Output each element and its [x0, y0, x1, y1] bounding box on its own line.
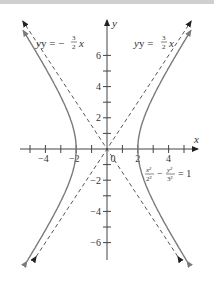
x-tick-label: −2 [69, 153, 80, 164]
y-tick-label: −2 [90, 175, 101, 186]
svg-text:yy =: yy = [133, 37, 153, 49]
x-tick-label: 4 [166, 153, 171, 164]
y-tick-label: −6 [90, 237, 101, 248]
svg-text:y²: y² [166, 166, 173, 174]
x-tick-labels: −4−2024 [38, 153, 171, 164]
axes: −4−2024 642−2−4−6 x y [20, 17, 199, 260]
y-tick-label: 4 [96, 81, 101, 92]
svg-text:2: 2 [72, 43, 76, 51]
asymptote-label-negative: yy = − 3 2 x [35, 34, 84, 51]
svg-text:= 1: = 1 [178, 168, 191, 179]
svg-text:3: 3 [162, 34, 166, 42]
svg-text:−: − [157, 168, 163, 179]
x-tick-label: −4 [38, 153, 49, 164]
asymptote-line [36, 21, 191, 257]
hyperbola-diagram: −4−2024 642−2−4−6 x y yy = − 3 2 x yy = … [0, 0, 214, 281]
svg-text:2: 2 [162, 43, 166, 51]
y-tick-label: 6 [96, 50, 101, 61]
svg-text:x: x [78, 37, 84, 49]
hyperbola-right-branch [138, 30, 191, 261]
y-tick-label: −4 [90, 206, 101, 217]
svg-text:x²: x² [145, 166, 152, 174]
y-tick-label: 2 [96, 112, 101, 123]
y-axis-label: y [111, 17, 117, 29]
svg-text:3²: 3² [167, 175, 173, 183]
hyperbola-left-branch [23, 30, 76, 261]
svg-text:yy = −: yy = − [35, 37, 64, 49]
equation-label: x² 2² − y² 3² = 1 [145, 166, 191, 183]
svg-text:x: x [168, 37, 174, 49]
asymptote-label-positive: yy = 3 2 x [133, 34, 174, 51]
svg-text:2²: 2² [146, 175, 152, 183]
x-axis-label: x [193, 133, 199, 145]
svg-text:3: 3 [72, 34, 76, 42]
